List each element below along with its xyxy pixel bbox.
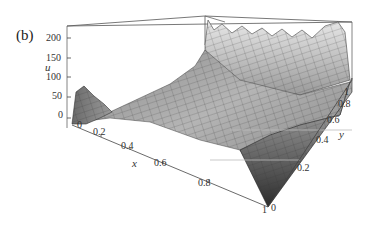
x-tick-0.4: 0.4: [121, 141, 134, 151]
y-tick-0.6: 0.6: [327, 115, 340, 125]
y-tick-0.8: 0.8: [338, 99, 351, 109]
y-tick-1: 1: [344, 87, 349, 97]
z-tick-100: 100: [46, 72, 61, 82]
y-tick-0: 0: [271, 203, 276, 213]
z-tick-150: 150: [46, 53, 61, 63]
y-tick-0.4: 0.4: [316, 135, 329, 145]
x-axis-label: x: [132, 158, 137, 169]
x-tick-1: 1: [262, 205, 267, 215]
z-tick-50: 50: [52, 91, 62, 101]
y-tick-0.2: 0.2: [297, 163, 310, 173]
x-tick-0.6: 0.6: [154, 158, 167, 168]
x-tick-0: 0: [77, 120, 82, 130]
z-tick-200: 200: [46, 33, 61, 43]
z-tick-0: 0: [58, 110, 63, 120]
panel-label: (b): [16, 28, 34, 43]
y-axis-label: y: [339, 129, 344, 140]
x-tick-0.8: 0.8: [198, 178, 211, 188]
x-tick-0.2: 0.2: [93, 127, 106, 137]
